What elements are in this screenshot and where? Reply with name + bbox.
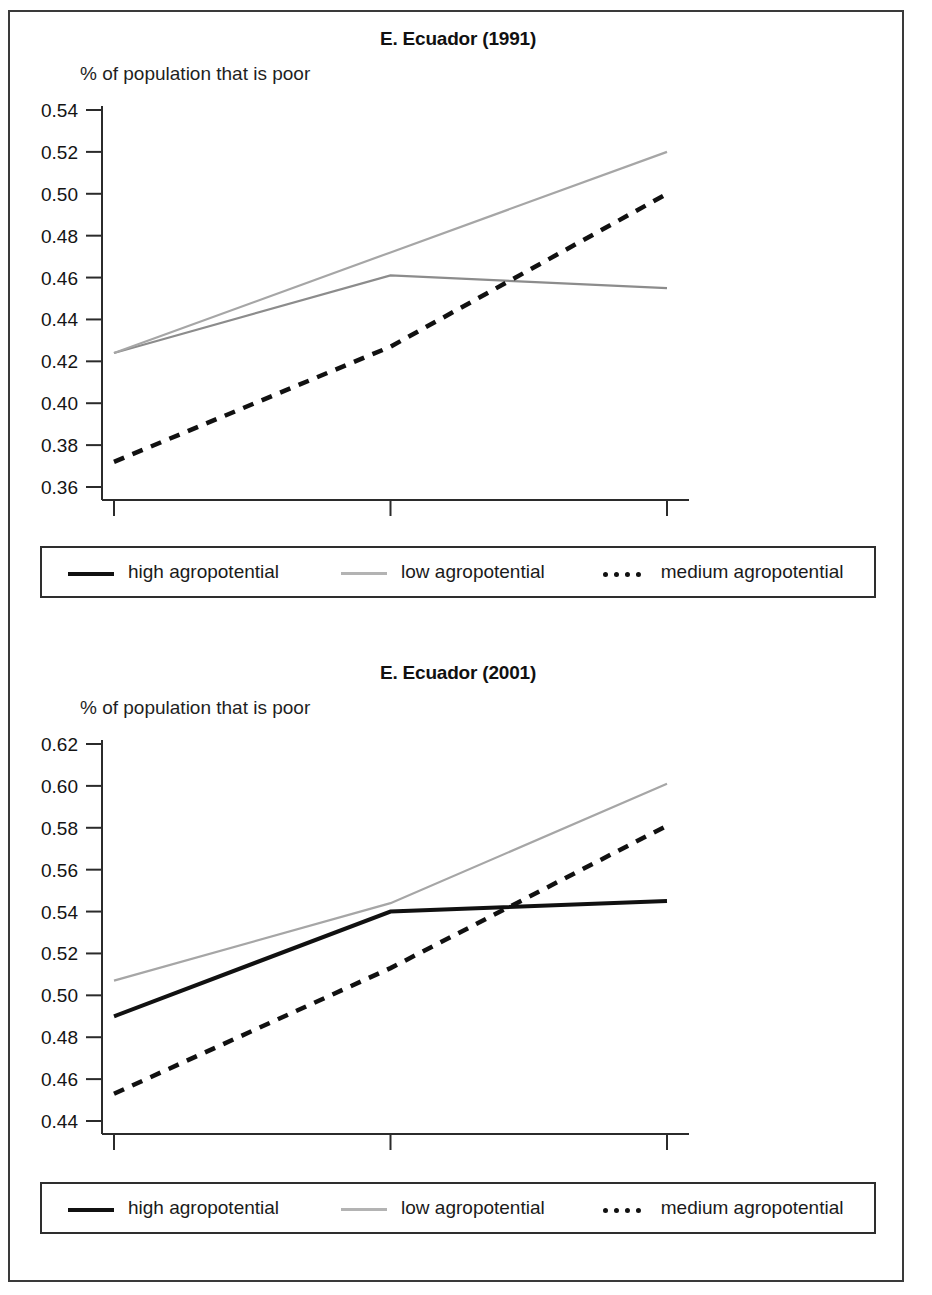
plot-area-2001: 0.620.600.580.560.540.520.500.480.460.44… bbox=[10, 730, 906, 1150]
legend-label-medium: medium agropotential bbox=[661, 1197, 844, 1219]
svg-text:0.62: 0.62 bbox=[41, 734, 78, 755]
legend-line-dashed-icon bbox=[601, 565, 647, 579]
legend-label-high: high agropotential bbox=[128, 1197, 279, 1219]
chart-panel-2001: E. Ecuador (2001) % of population that i… bbox=[10, 652, 906, 1272]
legend-1991: high agropotential low agropotential med… bbox=[40, 546, 876, 598]
svg-text:0.58: 0.58 bbox=[41, 818, 78, 839]
svg-text:0.42: 0.42 bbox=[41, 351, 78, 372]
legend-item-low-2001: low agropotential bbox=[341, 1197, 545, 1219]
chart-panel-1991: E. Ecuador (1991) % of population that i… bbox=[10, 18, 906, 636]
svg-text:0.52: 0.52 bbox=[41, 142, 78, 163]
svg-text:0.50: 0.50 bbox=[41, 184, 78, 205]
chart-title-1991: E. Ecuador (1991) bbox=[10, 18, 906, 52]
svg-text:0.48: 0.48 bbox=[41, 1027, 78, 1048]
legend-item-low-1991: low agropotential bbox=[341, 561, 545, 583]
svg-text:0.46: 0.46 bbox=[41, 1069, 78, 1090]
legend-label-low: low agropotential bbox=[401, 561, 545, 583]
legend-line-gray-icon bbox=[341, 1201, 387, 1215]
svg-text:0.54: 0.54 bbox=[41, 902, 78, 923]
line-chart-svg-1991: 0.540.520.500.480.460.440.420.400.380.36… bbox=[10, 96, 906, 516]
legend-label-medium: medium agropotential bbox=[661, 561, 844, 583]
line-chart-svg-2001: 0.620.600.580.560.540.520.500.480.460.44… bbox=[10, 730, 906, 1150]
svg-text:0.44: 0.44 bbox=[41, 309, 78, 330]
svg-text:0.50: 0.50 bbox=[41, 985, 78, 1006]
svg-text:0.56: 0.56 bbox=[41, 860, 78, 881]
legend-line-solid-icon bbox=[68, 565, 114, 579]
svg-text:0.48: 0.48 bbox=[41, 226, 78, 247]
legend-label-low: low agropotential bbox=[401, 1197, 545, 1219]
svg-text:0.36: 0.36 bbox=[41, 477, 78, 498]
legend-line-gray-icon bbox=[341, 565, 387, 579]
legend-item-high-2001: high agropotential bbox=[68, 1197, 279, 1219]
legend-line-dashed-icon bbox=[601, 1201, 647, 1215]
svg-text:0.38: 0.38 bbox=[41, 435, 78, 456]
legend-item-medium-2001: medium agropotential bbox=[601, 1197, 844, 1219]
y-axis-caption-1991: % of population that is poor bbox=[80, 63, 310, 85]
legend-line-solid-icon bbox=[68, 1201, 114, 1215]
svg-text:0.52: 0.52 bbox=[41, 943, 78, 964]
legend-label-high: high agropotential bbox=[128, 561, 279, 583]
svg-text:0.46: 0.46 bbox=[41, 268, 78, 289]
legend-item-medium-1991: medium agropotential bbox=[601, 561, 844, 583]
figure-frame: E. Ecuador (1991) % of population that i… bbox=[8, 10, 904, 1282]
legend-2001: high agropotential low agropotential med… bbox=[40, 1182, 876, 1234]
svg-text:0.60: 0.60 bbox=[41, 776, 78, 797]
legend-item-high-1991: high agropotential bbox=[68, 561, 279, 583]
svg-text:0.44: 0.44 bbox=[41, 1111, 78, 1132]
plot-area-1991: 0.540.520.500.480.460.440.420.400.380.36… bbox=[10, 96, 906, 516]
svg-text:0.54: 0.54 bbox=[41, 100, 78, 121]
y-axis-caption-2001: % of population that is poor bbox=[80, 697, 310, 719]
chart-title-2001: E. Ecuador (2001) bbox=[10, 652, 906, 686]
svg-text:0.40: 0.40 bbox=[41, 393, 78, 414]
